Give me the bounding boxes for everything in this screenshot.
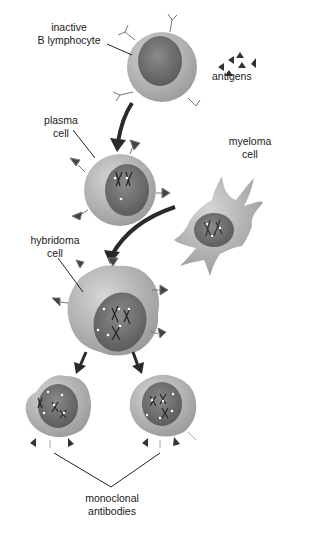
label-plasma-cell: plasma cell — [36, 114, 86, 140]
myeloma-cell — [174, 176, 263, 276]
arrow-to-plasma — [118, 103, 132, 142]
daughter-cell-left — [26, 375, 91, 448]
label-line: hybridoma — [25, 234, 85, 247]
label-inactive-b-lymphocyte: inactive B lymphocyte — [26, 21, 112, 47]
label-line: antibodies — [80, 505, 144, 518]
antibodies-bracket — [54, 453, 160, 487]
label-line: cell — [224, 148, 276, 161]
label-line: monoclonal — [80, 492, 144, 505]
label-line: myeloma — [224, 135, 276, 148]
label-line: B lymphocyte — [26, 34, 112, 47]
label-line: plasma — [36, 114, 86, 127]
label-hybridoma-cell: hybridoma cell — [25, 234, 85, 260]
hybridoma-cell — [52, 258, 168, 359]
label-monoclonal-antibodies: monoclonal antibodies — [80, 492, 144, 518]
label-line: inactive — [26, 21, 112, 34]
label-myeloma-cell: myeloma cell — [224, 135, 276, 161]
label-line: cell — [36, 127, 86, 140]
inactive-b-lymphocyte — [107, 14, 200, 106]
daughter-cell-right — [130, 375, 197, 448]
label-antigens: antigens — [212, 70, 252, 83]
split-arrows — [74, 352, 144, 374]
label-line: cell — [25, 247, 85, 260]
